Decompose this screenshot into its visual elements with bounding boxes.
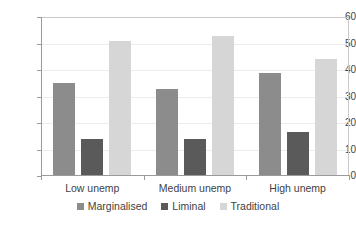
legend-label: Traditional xyxy=(231,201,280,212)
y-axis-line xyxy=(41,17,42,176)
bar-marginalised-medium-unemp xyxy=(156,89,178,176)
bar-traditional-low-unemp xyxy=(109,41,131,176)
legend-item-traditional[interactable]: Traditional xyxy=(220,201,280,212)
bars-layer xyxy=(41,17,349,176)
legend-label: Marginalised xyxy=(88,201,148,212)
legend-label: Liminal xyxy=(172,201,205,212)
bar-liminal-high-unemp xyxy=(287,132,309,176)
legend-swatch-icon xyxy=(220,203,227,210)
x-tick-mark xyxy=(349,175,350,180)
x-axis-label-high-unemp: High unemp xyxy=(246,182,349,194)
legend-swatch-icon xyxy=(161,203,168,210)
legend-item-marginalised[interactable]: Marginalised xyxy=(77,201,148,212)
bar-traditional-high-unemp xyxy=(315,59,337,176)
x-axis-label-low-unemp: Low unemp xyxy=(41,182,144,194)
bar-chart: 6050403020100 Low unempMedium unempHigh … xyxy=(0,0,356,227)
x-axis-line xyxy=(41,175,349,176)
legend-item-liminal[interactable]: Liminal xyxy=(161,201,205,212)
bar-marginalised-low-unemp xyxy=(53,83,75,176)
bar-traditional-medium-unemp xyxy=(212,36,234,176)
x-axis-label-medium-unemp: Medium unemp xyxy=(144,182,247,194)
x-tick-mark xyxy=(144,175,145,180)
bar-liminal-low-unemp xyxy=(81,139,103,176)
legend-swatch-icon xyxy=(77,203,84,210)
chart-legend: MarginalisedLiminalTraditional xyxy=(0,201,356,212)
bar-marginalised-high-unemp xyxy=(259,73,281,176)
bar-liminal-medium-unemp xyxy=(184,139,206,176)
x-tick-mark xyxy=(41,175,42,180)
x-tick-mark xyxy=(246,175,247,180)
